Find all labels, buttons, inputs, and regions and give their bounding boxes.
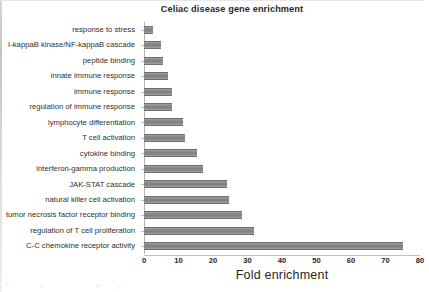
scan-speckle — [40, 285, 44, 288]
bar — [144, 26, 153, 34]
bar — [144, 118, 183, 126]
bar-row — [144, 177, 424, 192]
y-axis-tick-mark — [141, 45, 144, 46]
bar — [144, 242, 403, 250]
y-axis-tick-mark — [141, 169, 144, 170]
y-axis-category-label: natural killer cell activation — [0, 192, 140, 207]
bar — [144, 72, 168, 80]
x-axis-title: Fold enrichment — [144, 268, 420, 282]
y-axis-tick-mark — [141, 138, 144, 139]
scan-speckle — [118, 286, 121, 289]
y-axis-tick-mark — [141, 122, 144, 123]
bar — [144, 165, 203, 173]
bar — [144, 180, 227, 188]
y-axis-tick-mark — [141, 61, 144, 62]
y-axis-category-label: JAK-STAT cascade — [0, 177, 140, 192]
bar-row — [144, 99, 424, 114]
x-axis-tick-label: 10 — [167, 256, 191, 265]
y-axis-category-label: regulation of T cell proliferation — [0, 223, 140, 238]
x-axis-tick-label: 50 — [305, 256, 329, 265]
y-axis-category-labels: response to stressI-kappaB kinase/NF-kap… — [0, 22, 140, 254]
bar-row — [144, 238, 424, 253]
bar-row — [144, 161, 424, 176]
bar-row — [144, 146, 424, 161]
x-axis-tick-label: 40 — [270, 256, 294, 265]
y-axis-tick-mark — [141, 184, 144, 185]
bar-row — [144, 130, 424, 145]
bar — [144, 88, 172, 96]
bar-row — [144, 84, 424, 99]
bar — [144, 196, 229, 204]
x-axis-tick-label: 60 — [339, 256, 363, 265]
y-axis-category-label: C-C chemokine receptor activity — [0, 238, 140, 253]
bar — [144, 211, 242, 219]
bar — [144, 134, 185, 142]
y-axis-tick-mark — [141, 92, 144, 93]
bar-series — [144, 22, 424, 254]
y-axis-category-label: regulation of immune response — [0, 99, 140, 114]
bar — [144, 41, 161, 49]
x-axis-tick-label: 0 — [132, 256, 156, 265]
scan-speckle — [6, 283, 9, 287]
bar-row — [144, 22, 424, 37]
page-top-artifact — [0, 0, 424, 1]
bar — [144, 227, 254, 235]
y-axis-category-label: response to stress — [0, 22, 140, 37]
y-axis-category-label: T cell activation — [0, 130, 140, 145]
bar-row — [144, 207, 424, 222]
y-axis-category-label: innate immune response — [0, 68, 140, 83]
bar-row — [144, 53, 424, 68]
y-axis-tick-mark — [141, 246, 144, 247]
bar — [144, 149, 197, 157]
y-axis-category-label: cytokine binding — [0, 146, 140, 161]
y-axis-tick-mark — [141, 30, 144, 31]
bar — [144, 103, 172, 111]
bar-row — [144, 115, 424, 130]
chart-title: Celiac disease gene enrichment — [0, 4, 424, 14]
x-axis-tick-label: 20 — [201, 256, 225, 265]
y-axis-category-label: interferon-gamma production — [0, 161, 140, 176]
y-axis-tick-mark — [141, 215, 144, 216]
y-axis-tick-mark — [141, 231, 144, 232]
bar-row — [144, 223, 424, 238]
x-axis-tick-label: 70 — [374, 256, 398, 265]
y-axis-tick-mark — [141, 200, 144, 201]
bar-row — [144, 37, 424, 52]
x-axis-tick-label: 30 — [236, 256, 260, 265]
y-axis-category-label: immune response — [0, 84, 140, 99]
scan-speckle — [96, 284, 101, 287]
y-axis-tick-mark — [141, 153, 144, 154]
y-axis-tick-mark — [141, 76, 144, 77]
bar — [144, 57, 163, 65]
y-axis-category-label: tumor necrosis factor receptor binding — [0, 207, 140, 222]
bar-row — [144, 68, 424, 83]
y-axis-category-label: lymphocyte differentiation — [0, 115, 140, 130]
y-axis-tick-mark — [141, 107, 144, 108]
x-axis-tick-label: 80 — [408, 256, 429, 265]
y-axis-category-label: I-kappaB kinase/NF-kappaB cascade — [0, 37, 140, 52]
bar-row — [144, 192, 424, 207]
y-axis-category-label: peptide binding — [0, 53, 140, 68]
